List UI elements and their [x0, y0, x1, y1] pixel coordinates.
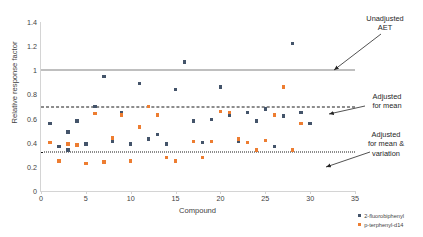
data-point — [282, 114, 285, 117]
x-axis-tick-label: 0 — [39, 194, 43, 203]
y-axis-tick-label: 1.4 — [27, 18, 37, 27]
x-axis-tick-label: 35 — [351, 194, 359, 203]
y-axis-tick-label: 0 — [33, 187, 37, 196]
data-point — [273, 145, 276, 148]
data-point — [219, 110, 222, 113]
legend: 2-fluorobiphenyl p-terphenyl-d14 — [358, 211, 404, 229]
legend-swatch-icon — [358, 223, 361, 226]
data-point — [48, 122, 51, 125]
data-point — [138, 82, 141, 85]
data-point — [147, 105, 150, 108]
x-axis-tick-mark — [355, 191, 356, 194]
data-point — [147, 137, 150, 140]
y-axis-title: Relative response factor — [10, 13, 19, 153]
legend-swatch-icon — [358, 214, 361, 217]
y-axis-tick-label: 0.2 — [27, 162, 37, 171]
data-point — [291, 148, 294, 151]
scatter-chart: Relative response factor Compound 00.20.… — [0, 0, 423, 237]
data-point — [111, 136, 114, 139]
data-point — [102, 160, 105, 163]
data-point — [102, 75, 105, 78]
x-axis-tick-label: 5 — [84, 194, 88, 203]
x-axis-tick-label: 30 — [306, 194, 314, 203]
data-point — [255, 119, 258, 122]
reference-line-unadjusted — [41, 70, 355, 71]
data-point — [93, 105, 96, 108]
legend-label: p-terphenyl-d14 — [364, 222, 403, 228]
reference-line-mean — [41, 106, 355, 107]
data-point — [246, 111, 249, 114]
data-point — [129, 142, 132, 145]
data-point — [228, 111, 231, 114]
x-axis-tick-label: 10 — [127, 194, 135, 203]
data-point — [192, 119, 195, 122]
data-point — [264, 107, 267, 110]
x-axis-title: Compound — [40, 206, 355, 215]
data-point — [219, 85, 222, 88]
data-point — [308, 122, 311, 125]
y-axis-tick-label: 1 — [33, 66, 37, 75]
data-point — [299, 122, 302, 125]
data-point — [183, 60, 186, 63]
data-point — [66, 148, 69, 151]
data-point — [120, 113, 123, 116]
x-axis-tick-mark — [41, 191, 42, 194]
data-point — [84, 162, 87, 165]
reference-line-meanvar — [41, 152, 355, 153]
y-axis-tick-label: 0.8 — [27, 90, 37, 99]
data-point — [111, 140, 114, 143]
data-point — [255, 148, 258, 151]
y-axis-tick-label: 0.6 — [27, 114, 37, 123]
x-axis-tick-label: 25 — [261, 194, 269, 203]
x-axis-tick-mark — [310, 191, 311, 194]
data-point — [156, 113, 159, 116]
data-point — [201, 156, 204, 159]
x-axis-tick-mark — [176, 191, 177, 194]
data-point — [201, 141, 204, 144]
data-point — [138, 125, 141, 128]
data-point — [174, 159, 177, 162]
data-point — [291, 42, 294, 45]
x-axis-tick-label: 20 — [216, 194, 224, 203]
data-point — [75, 119, 78, 122]
legend-item-p-terphenyl-d14[interactable]: p-terphenyl-d14 — [358, 220, 404, 229]
annotation-adjusted-for-mean: Adjusted for mean — [354, 92, 420, 111]
data-point — [84, 142, 87, 145]
x-axis-tick-mark — [220, 191, 221, 194]
data-point — [210, 118, 213, 121]
annotation-adjusted-for-mean-and-variation: Adjusted for mean & variation — [352, 130, 420, 158]
data-point — [66, 130, 69, 133]
data-point — [75, 143, 78, 146]
data-point — [48, 141, 51, 144]
data-point — [129, 159, 132, 162]
data-point — [165, 142, 168, 145]
y-axis-tick-label: 0.4 — [27, 138, 37, 147]
data-point — [174, 88, 177, 91]
x-axis-tick-mark — [131, 191, 132, 194]
data-point — [246, 141, 249, 144]
data-point — [165, 156, 168, 159]
y-axis-tick-label: 1.2 — [27, 42, 37, 51]
data-point — [66, 142, 69, 145]
data-point — [237, 137, 240, 140]
data-point — [57, 159, 60, 162]
data-point — [57, 145, 60, 148]
data-point — [93, 112, 96, 115]
data-point — [156, 133, 159, 136]
data-point — [210, 140, 213, 143]
data-point — [264, 139, 267, 142]
legend-item-2-fluorobiphenyl[interactable]: 2-fluorobiphenyl — [358, 211, 404, 220]
plot-area: 00.20.40.60.811.21.405101520253035 — [40, 22, 355, 192]
data-point — [273, 113, 276, 116]
data-point — [192, 140, 195, 143]
annotation-unadjusted-aet: Unadjusted AET — [352, 14, 418, 33]
x-axis-tick-mark — [86, 191, 87, 194]
legend-label: 2-fluorobiphenyl — [364, 213, 404, 219]
data-point — [299, 111, 302, 114]
x-axis-tick-mark — [265, 191, 266, 194]
x-axis-tick-label: 15 — [172, 194, 180, 203]
data-point — [282, 85, 285, 88]
